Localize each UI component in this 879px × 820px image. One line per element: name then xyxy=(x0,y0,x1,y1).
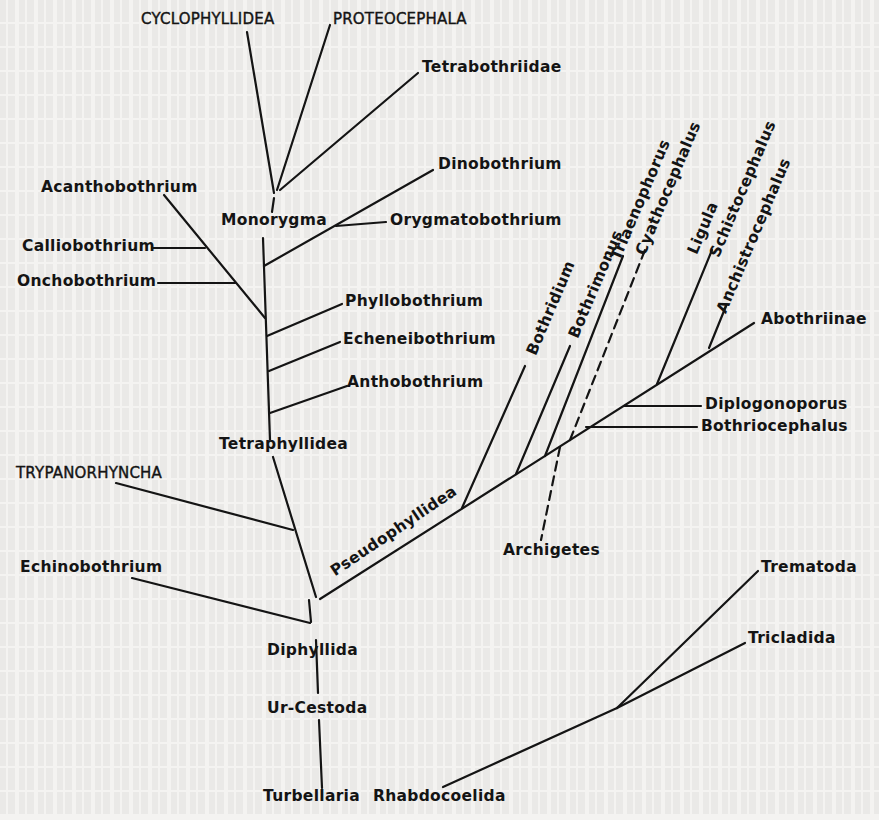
branch-trematoda xyxy=(617,571,758,708)
label-trypanorhyncha: TRYPANORHYNCHA xyxy=(16,466,162,481)
branch-rhabdocoelida xyxy=(443,708,617,787)
label-echinobothrium: Echinobothrium xyxy=(20,560,162,576)
branch-diphyllida-up xyxy=(309,600,311,622)
label-monorygma: Monorygma xyxy=(221,213,327,229)
label-acanthobothrium: Acanthobothrium xyxy=(41,180,198,196)
label-dinobothrium: Dinobothrium xyxy=(438,157,562,173)
label-diplogonoporus: Diplogonoporus xyxy=(705,397,848,413)
label-diphyllida: Diphyllida xyxy=(267,643,358,659)
branch-echeneibothrium xyxy=(269,342,340,371)
branch-proteocephala xyxy=(277,25,330,190)
label-cyclophyllidea: CYCLOPHYLLIDEA xyxy=(141,12,274,27)
label-orygmatobothrium: Orygmatobothrium xyxy=(390,213,562,229)
branch-ligula xyxy=(657,250,712,384)
branch-tetraphyllidea-vertical xyxy=(263,238,270,440)
label-turbellaria: Turbellaria xyxy=(263,789,360,805)
branch-orygmatobothrium xyxy=(336,222,386,226)
branch-tetrabothriidae xyxy=(280,73,418,190)
label-onchobothrium: Onchobothrium xyxy=(17,274,156,290)
label-proteocephala: PROTEOCEPHALA xyxy=(333,12,467,27)
branch-cyclophyllidea xyxy=(247,32,274,193)
label-trematoda: Trematoda xyxy=(761,560,857,576)
label-tricladida: Tricladida xyxy=(748,631,836,647)
branch-turbellaria-urcestoda xyxy=(319,720,322,788)
label-bothriocephalus: Bothriocephalus xyxy=(701,419,848,435)
branch-echinobothrium xyxy=(132,578,310,623)
label-tetraphyllidea: Tetraphyllidea xyxy=(219,437,348,453)
branch-anthobothrium xyxy=(270,386,347,413)
label-ur-cestoda: Ur-Cestoda xyxy=(267,701,367,717)
branch-trypanorhyncha xyxy=(116,483,293,530)
label-archigetes: Archigetes xyxy=(503,543,600,559)
label-rhabdocoelida: Rhabdocoelida xyxy=(373,789,506,805)
branch-monorygma-stem xyxy=(272,198,274,212)
branch-archigetes xyxy=(541,447,560,540)
branch-phyllobothrium xyxy=(267,304,342,336)
label-echeneibothrium: Echeneibothrium xyxy=(343,332,496,348)
label-tetrabothriidae: Tetrabothriidae xyxy=(422,60,562,76)
phylogenetic-diagram: CYCLOPHYLLIDEA PROTEOCEPHALA Tetrabothri… xyxy=(0,0,879,820)
label-calliobothrium: Calliobothrium xyxy=(22,239,155,255)
branch-tricladida xyxy=(617,643,745,708)
label-phyllobothrium: Phyllobothrium xyxy=(345,294,483,310)
label-anthobothrium: Anthobothrium xyxy=(347,375,483,391)
label-abothriinae: Abothriinae xyxy=(761,312,867,328)
